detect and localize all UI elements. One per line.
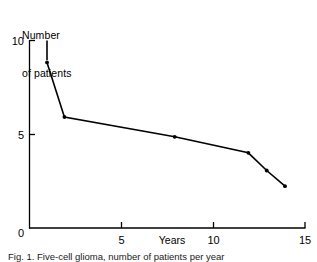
x-tick-label-5: 5 [118,234,124,246]
data-point [265,169,269,173]
x-axis-title: Years [159,234,185,246]
data-point [45,61,49,65]
y-tick-label-0: 0 [18,227,24,239]
x-tick-label-10: 10 [207,234,219,246]
y-tick-label-10: 10 [12,35,24,47]
data-point [246,151,250,155]
data-point [63,115,67,119]
data-point [283,184,287,188]
x-tick-label-15: 15 [299,234,311,246]
y-tick-label-5: 5 [18,129,24,141]
data-line [47,62,285,186]
data-point [173,135,177,139]
figure-caption: Fig. 1. Five-cell glioma, number of pati… [8,251,313,262]
